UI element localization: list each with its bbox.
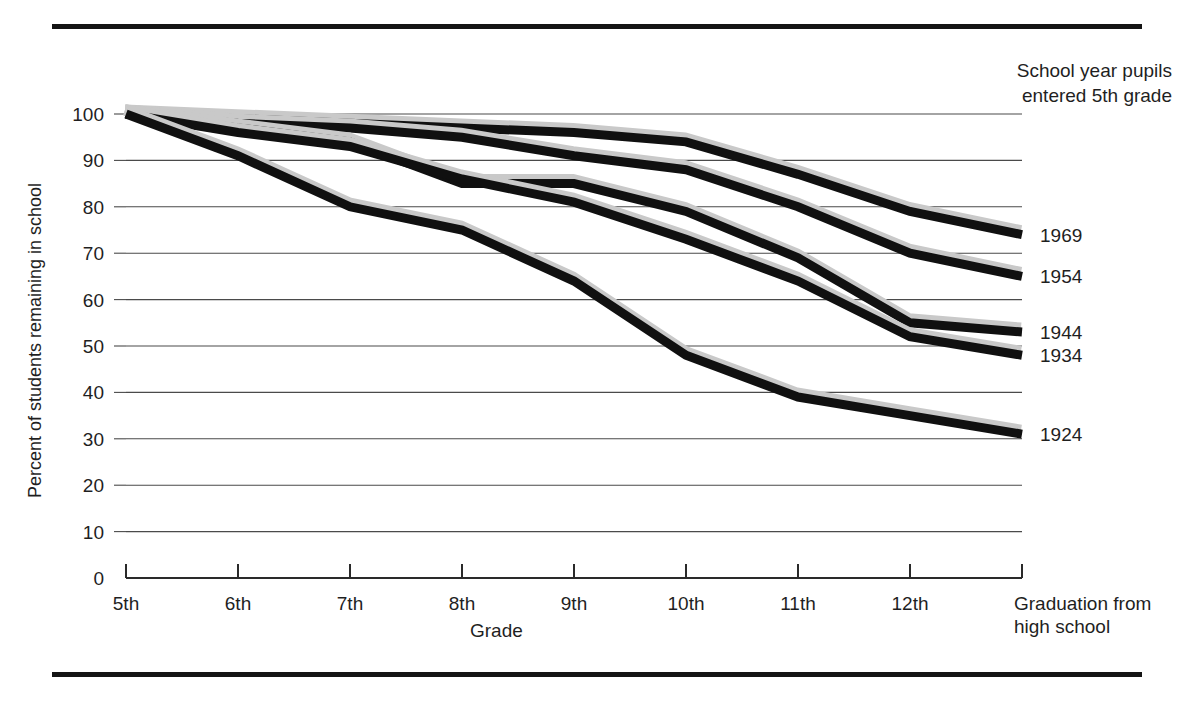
series-shadow: [125, 110, 1021, 328]
x-tick-label: 9th: [529, 592, 619, 615]
x-tick-label: 11th: [753, 592, 843, 615]
y-tick-label: 100: [58, 105, 104, 124]
x-tick-label: 10th: [641, 592, 731, 615]
x-tick-label: 8th: [417, 592, 507, 615]
y-tick-label: 70: [58, 244, 104, 263]
y-tick-label: 60: [58, 291, 104, 310]
x-tick-label: Graduation from high school: [1014, 592, 1194, 638]
series-label-1944: 1944: [1040, 323, 1082, 342]
y-tick-label: 20: [58, 476, 104, 495]
series-label-1954: 1954: [1040, 267, 1082, 286]
x-tick-label: 5th: [81, 592, 171, 615]
y-tick-label: 0: [58, 569, 104, 588]
y-tick-label: 10: [58, 523, 104, 542]
chart-figure: School year pupils entered 5th grade Per…: [0, 0, 1194, 706]
y-tick-label: 90: [58, 151, 104, 170]
y-tick-label: 30: [58, 430, 104, 449]
y-tick-label: 80: [58, 198, 104, 217]
series-label-1969: 1969: [1040, 226, 1082, 245]
series-label-1934: 1934: [1040, 346, 1082, 365]
x-tick-label: 12th: [865, 592, 955, 615]
y-tick-label: 50: [58, 337, 104, 356]
x-tick-label: 6th: [193, 592, 283, 615]
x-tick-label: 7th: [305, 592, 395, 615]
y-tick-label: 40: [58, 383, 104, 402]
series-label-1924: 1924: [1040, 425, 1082, 444]
